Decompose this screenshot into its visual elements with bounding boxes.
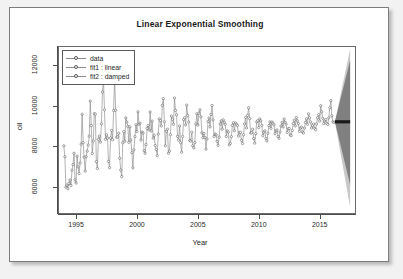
legend-item: fit1 : linear: [66, 63, 129, 72]
x-tick-mark: [198, 215, 199, 219]
legend-item-label: data: [90, 54, 103, 63]
x-tick-label: 2000: [117, 221, 157, 228]
line-marker-icon: [66, 54, 86, 63]
x-tick-mark: [259, 215, 260, 219]
data-point-markers: [63, 76, 335, 189]
chart-card: Linear Exponential Smoothing 19952000200…: [9, 7, 389, 262]
y-tick-mark: [53, 146, 57, 147]
y-tick-mark: [53, 65, 57, 66]
line-marker-icon: [66, 63, 86, 72]
y-tick-label: 8000: [31, 129, 38, 163]
y-tick-label: 12000: [31, 48, 38, 82]
y-axis-title: oil: [15, 110, 24, 144]
data-series-line: [64, 78, 334, 189]
legend-item-label: fit2 : damped: [90, 72, 129, 81]
legend: data fit1 : linear fit2 : damped: [62, 50, 135, 85]
legend-item: data: [66, 54, 129, 63]
x-tick-label: 2005: [178, 221, 218, 228]
y-axis-line: [57, 46, 58, 214]
y-tick-label: 6000: [31, 169, 38, 203]
y-tick-mark: [53, 106, 57, 107]
x-tick-label: 2015: [300, 221, 340, 228]
plot-area: Linear Exponential Smoothing 19952000200…: [10, 8, 388, 261]
line-marker-icon: [66, 72, 86, 81]
legend-item: fit2 : damped: [66, 72, 129, 81]
x-tick-mark: [76, 215, 77, 219]
y-tick-mark: [53, 187, 57, 188]
x-tick-label: 2010: [239, 221, 279, 228]
y-tick-label: 10000: [31, 88, 38, 122]
x-axis-line: [58, 214, 356, 215]
x-tick-mark: [137, 215, 138, 219]
x-tick-label: 1995: [56, 221, 96, 228]
x-axis-title: Year: [10, 238, 390, 247]
legend-item-label: fit1 : linear: [90, 63, 121, 72]
page-title: Linear Exponential Smoothing: [10, 19, 390, 29]
x-tick-mark: [320, 215, 321, 219]
